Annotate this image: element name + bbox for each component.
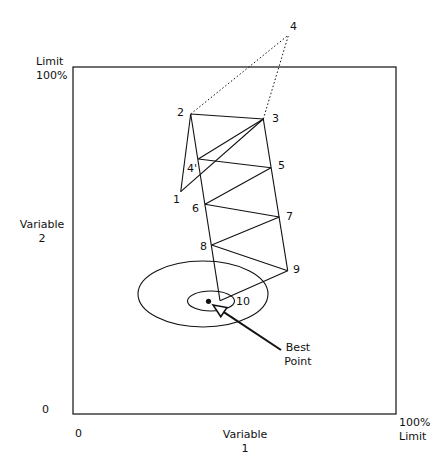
edge-5-6 xyxy=(205,168,271,205)
y-limit-word: Limit xyxy=(36,55,67,69)
best-point-dot xyxy=(206,299,211,304)
edge-3-4p xyxy=(198,119,263,159)
rejected-vertex-lines xyxy=(191,35,289,119)
edge-2-3 xyxy=(191,114,264,119)
vertex-label-6: 6 xyxy=(192,203,199,215)
x-axis-right-limit-label: 100% Limit xyxy=(399,416,430,444)
edge-6-7 xyxy=(205,204,279,217)
plot-frame xyxy=(73,67,396,414)
vertex-label-2: 2 xyxy=(177,107,184,119)
best-point-label: Best Point xyxy=(281,341,315,369)
vertex-label-3: 3 xyxy=(272,113,279,125)
x-axis-title-line1: Variable xyxy=(218,428,272,442)
best-point-arrow-shaft xyxy=(224,312,281,350)
dotted-line-2-4 xyxy=(191,35,289,114)
outer-contour xyxy=(138,261,268,327)
dotted-line-3-4 xyxy=(263,35,288,119)
vertex-label-4p: 4' xyxy=(187,163,197,175)
best-point-label-line2: Point xyxy=(281,355,315,369)
vertex-label-1: 1 xyxy=(173,194,180,206)
y-axis-origin-label: 0 xyxy=(42,403,49,417)
vertex-label-8: 8 xyxy=(200,241,207,253)
edge-7-8 xyxy=(212,217,280,245)
edge-9-10 xyxy=(220,271,288,301)
x-limit-percent: 100% xyxy=(399,416,430,430)
best-point-label-line1: Best xyxy=(281,341,315,355)
response-contours xyxy=(138,261,268,327)
edge-8-9 xyxy=(212,245,288,271)
edge-3-9 xyxy=(263,119,287,271)
x-axis-title-line2: 1 xyxy=(218,442,272,456)
x-axis-origin-label: 0 xyxy=(75,427,82,441)
edge-1-2 xyxy=(181,114,191,192)
y-axis-title-line2: 2 xyxy=(16,232,68,246)
y-axis-title: Variable 2 xyxy=(16,218,68,246)
vertex-label-7: 7 xyxy=(286,211,293,223)
y-axis-top-limit-label: Limit 100% xyxy=(36,55,67,83)
vertex-label-4: 4 xyxy=(290,21,297,33)
x-limit-word: Limit xyxy=(399,430,430,444)
vertex-label-10: 10 xyxy=(236,296,250,308)
y-axis-title-line1: Variable xyxy=(16,218,68,232)
vertex-label-9: 9 xyxy=(293,264,300,276)
x-axis-title: Variable 1 xyxy=(218,428,272,456)
vertex-label-5: 5 xyxy=(278,160,285,172)
y-limit-percent: 100% xyxy=(36,69,67,83)
